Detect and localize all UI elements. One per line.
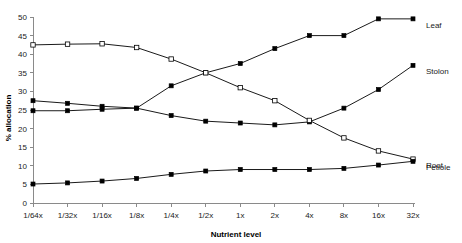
chart-canvas: 05101520253035404550 1/64x1/32x1/16x1/8x…	[0, 0, 462, 243]
y-tick-label: 20	[18, 125, 27, 134]
y-tick-label: 0	[23, 199, 28, 208]
data-point	[273, 99, 277, 103]
series-petiole	[31, 159, 415, 186]
x-tick-label: 1/4x	[164, 211, 179, 220]
data-point	[342, 106, 346, 110]
x-tick-label: 1/8x	[129, 211, 144, 220]
data-point	[307, 34, 311, 38]
series-label-petiole: Petiole	[426, 163, 451, 172]
series-root	[31, 42, 415, 162]
x-tick-label: 1/2x	[198, 211, 213, 220]
data-point	[376, 17, 380, 21]
y-tick-label: 10	[18, 162, 27, 171]
data-point	[273, 168, 277, 172]
data-point	[307, 168, 311, 172]
series-label-leaf: Leaf	[426, 21, 442, 30]
y-tick-label: 35	[18, 69, 27, 78]
data-point	[273, 47, 277, 51]
data-point	[307, 118, 311, 122]
x-tick-label: 8x	[340, 211, 348, 220]
data-point	[135, 106, 139, 110]
allocation-line-chart: 05101520253035404550 1/64x1/32x1/16x1/8x…	[0, 0, 462, 243]
data-point	[100, 42, 104, 46]
x-axis-title: Nutrient level	[211, 230, 262, 239]
data-point	[66, 181, 70, 185]
data-point	[66, 109, 70, 113]
y-tick-label: 50	[18, 13, 27, 22]
data-point	[31, 99, 35, 103]
data-point	[31, 182, 35, 186]
data-point	[238, 121, 242, 125]
x-tick-label: 2x	[271, 211, 279, 220]
data-point	[238, 85, 242, 89]
x-tick-label: 16x	[372, 211, 385, 220]
x-tick-label: 1/16x	[92, 211, 112, 220]
data-point	[342, 34, 346, 38]
data-series-layer	[31, 17, 415, 186]
data-point	[31, 109, 35, 113]
data-point	[273, 123, 277, 127]
x-tick-label: 32x	[407, 211, 420, 220]
series-stolon	[31, 63, 415, 127]
y-tick-label: 30	[18, 87, 27, 96]
data-point	[135, 176, 139, 180]
y-tick-label: 25	[18, 106, 27, 115]
data-point	[65, 42, 69, 46]
data-point	[376, 163, 380, 167]
series-line-petiole	[33, 161, 413, 184]
data-point	[238, 168, 242, 172]
y-tick-label: 15	[18, 143, 27, 152]
y-axis-title: % allocation	[4, 95, 13, 142]
series-leaf	[31, 17, 415, 110]
data-point	[204, 71, 208, 75]
data-point	[134, 45, 138, 49]
y-tick-label: 45	[18, 32, 27, 41]
x-axis-ticks: 1/64x1/32x1/16x1/8x1/4x1/2x1x2x4x8x16x32…	[23, 203, 419, 220]
data-point	[31, 43, 35, 47]
data-point	[376, 88, 380, 92]
x-tick-label: 1x	[236, 211, 244, 220]
data-point	[342, 136, 346, 140]
y-tick-label: 40	[18, 50, 27, 59]
x-tick-label: 1/64x	[23, 211, 43, 220]
x-tick-label: 4x	[305, 211, 313, 220]
data-point	[204, 169, 208, 173]
series-label-stolon: Stolon	[426, 67, 449, 76]
series-line-leaf	[33, 19, 413, 108]
data-point	[169, 172, 173, 176]
y-tick-label: 5	[23, 180, 28, 189]
data-point	[342, 166, 346, 170]
data-point	[411, 63, 415, 67]
data-point	[100, 107, 104, 111]
data-point	[169, 84, 173, 88]
data-point	[238, 62, 242, 66]
data-point	[66, 101, 70, 105]
x-tick-label: 1/32x	[58, 211, 78, 220]
data-point	[169, 114, 173, 118]
data-point	[376, 149, 380, 153]
series-line-stolon	[33, 65, 413, 125]
data-point	[204, 119, 208, 123]
series-label-layer: LeafStolonRootPetiole	[426, 21, 451, 172]
data-point	[411, 17, 415, 21]
data-point	[411, 159, 415, 163]
data-point	[169, 57, 173, 61]
data-point	[100, 179, 104, 183]
